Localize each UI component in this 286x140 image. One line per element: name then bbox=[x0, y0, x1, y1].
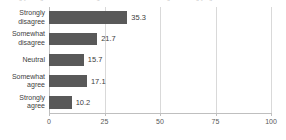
tick-mark-0 bbox=[49, 113, 50, 116]
tick-mark-100 bbox=[271, 113, 272, 116]
tick-mark-50 bbox=[160, 113, 161, 116]
category-label-2: Neutral bbox=[0, 49, 45, 70]
cutoff-header-strip: Strongly disagree Somewhat disagree Neut… bbox=[0, 0, 286, 7]
category-label-0: Stronglydisagree bbox=[0, 7, 45, 28]
xtick-label-0: 0 bbox=[47, 118, 51, 125]
bar-0[interactable] bbox=[49, 11, 127, 23]
bar-3[interactable] bbox=[49, 75, 87, 87]
bar-row: Somewhatagree17.1 bbox=[0, 71, 286, 92]
bar-value-label-3: 17.1 bbox=[91, 71, 106, 92]
xtick-label-75: 75 bbox=[212, 118, 220, 125]
cutoff-header-text: Strongly disagree Somewhat disagree Neut… bbox=[4, 0, 282, 1]
xtick-label-50: 50 bbox=[156, 118, 164, 125]
category-label-1: Somewhatdisagree bbox=[0, 28, 45, 49]
xtick-label-100: 100 bbox=[265, 118, 277, 125]
bar-value-label-2: 15.7 bbox=[88, 49, 103, 70]
bar-1[interactable] bbox=[49, 33, 97, 45]
tick-mark-25 bbox=[105, 113, 106, 116]
bar-value-label-1: 21.7 bbox=[101, 28, 116, 49]
bar-4[interactable] bbox=[49, 96, 72, 108]
bar-row: Neutral15.7 bbox=[0, 49, 286, 70]
bar-2[interactable] bbox=[49, 54, 84, 66]
bar-value-label-4: 10.2 bbox=[76, 92, 91, 113]
tick-mark-75 bbox=[216, 113, 217, 116]
chart-screenshot: Strongly disagree Somewhat disagree Neut… bbox=[0, 0, 286, 140]
bar-row: Stronglydisagree35.3 bbox=[0, 7, 286, 28]
bar-row: Somewhatdisagree21.7 bbox=[0, 28, 286, 49]
bar-row: Stronglyagree10.2 bbox=[0, 92, 286, 113]
category-label-4: Stronglyagree bbox=[0, 92, 45, 113]
category-label-3: Somewhatagree bbox=[0, 71, 45, 92]
bar-value-label-0: 35.3 bbox=[131, 7, 146, 28]
bar-chart: Stronglydisagree35.3Somewhatdisagree21.7… bbox=[0, 7, 286, 140]
xtick-label-25: 25 bbox=[101, 118, 109, 125]
